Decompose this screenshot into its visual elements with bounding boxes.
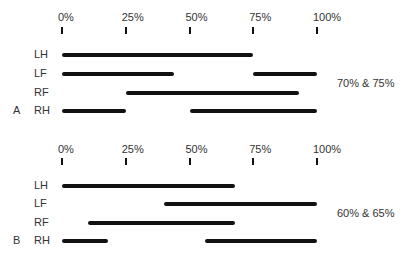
tick-mark	[252, 158, 254, 165]
panel-letter: B	[13, 234, 20, 246]
tick-mark	[125, 158, 127, 165]
row-label-rf: RF	[34, 216, 49, 228]
row-label-lh: LH	[34, 179, 48, 191]
row-label-rh: RH	[34, 234, 50, 246]
panel-b: 0%25%50%75%100%LHLFRFRHB60% & 65%	[0, 0, 408, 261]
tick-label: 25%	[122, 143, 144, 155]
tick-mark	[61, 158, 63, 165]
tick-mark	[189, 158, 191, 165]
tick-label: 100%	[313, 143, 341, 155]
stance-bar-rh	[62, 239, 108, 243]
row-label-lf: LF	[34, 197, 47, 209]
tick-mark	[316, 158, 318, 165]
stance-bar-rh	[205, 239, 317, 243]
stance-bar-lf	[164, 202, 317, 206]
tick-label: 75%	[249, 143, 271, 155]
stance-bar-lh	[62, 184, 235, 188]
tick-label: 0%	[58, 143, 74, 155]
stance-bar-rf	[88, 221, 236, 225]
panel-caption: 60% & 65%	[337, 207, 394, 219]
tick-label: 50%	[186, 143, 208, 155]
